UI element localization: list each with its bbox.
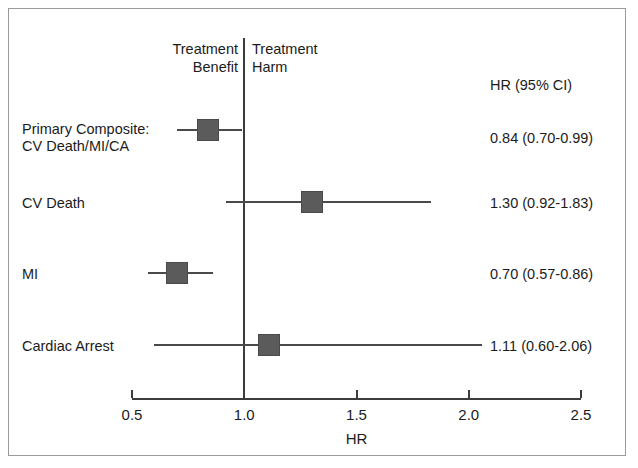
x-axis-tick-label: 0.5 [102, 406, 162, 424]
x-axis-tick [468, 390, 470, 398]
treatment-harm-line2: Harm [252, 59, 287, 75]
row3-label-line1: MI [22, 266, 38, 282]
point-estimate-row-1 [197, 119, 219, 141]
treatment-benefit-line2: Benefit [193, 59, 238, 75]
point-estimate-row-4 [258, 334, 280, 356]
x-axis-tick [356, 390, 358, 398]
row-value-cv-death: 1.30 (0.92-1.83) [490, 195, 593, 212]
row-label-cardiac-arrest: Cardiac Arrest [22, 338, 114, 355]
treatment-harm-header: TreatmentHarm [252, 40, 402, 76]
x-axis-title: HR [327, 430, 387, 447]
row-label-primary-composite: Primary Composite:CV Death/MI/CA [22, 121, 149, 155]
row-label-mi: MI [22, 266, 38, 283]
x-axis-tick-label: 2.5 [551, 406, 611, 424]
row-value-primary-composite: 0.84 (0.70-0.99) [490, 130, 593, 147]
row1-label-line1: Primary Composite: [22, 121, 149, 137]
treatment-benefit-header: TreatmentBenefit [120, 40, 238, 76]
ci-line-row-2 [226, 201, 430, 203]
forest-plot-figure: TreatmentBenefit TreatmentHarm HR (95% C… [0, 0, 638, 468]
treatment-benefit-line1: Treatment [172, 41, 238, 57]
x-axis-tick [243, 390, 245, 398]
x-axis-tick-label: 1.5 [327, 406, 387, 424]
ci-line-row-4 [154, 344, 482, 346]
row1-label-line2: CV Death/MI/CA [22, 138, 129, 154]
row-value-cardiac-arrest: 1.11 (0.60-2.06) [490, 338, 592, 355]
x-axis-tick-label: 2.0 [439, 406, 499, 424]
point-estimate-row-2 [301, 191, 323, 213]
point-estimate-row-3 [166, 262, 188, 284]
row4-label-line1: Cardiac Arrest [22, 338, 114, 354]
x-axis-tick [131, 390, 133, 398]
x-axis-line [132, 398, 581, 400]
row-label-cv-death: CV Death [22, 195, 85, 212]
x-axis-tick [580, 390, 582, 398]
x-axis-tick-label: 1.0 [214, 406, 274, 424]
row-value-mi: 0.70 (0.57-0.86) [490, 266, 593, 283]
hr-ci-column-header: HR (95% CI) [490, 76, 572, 94]
treatment-harm-line1: Treatment [252, 41, 318, 57]
row2-label-line1: CV Death [22, 195, 85, 211]
